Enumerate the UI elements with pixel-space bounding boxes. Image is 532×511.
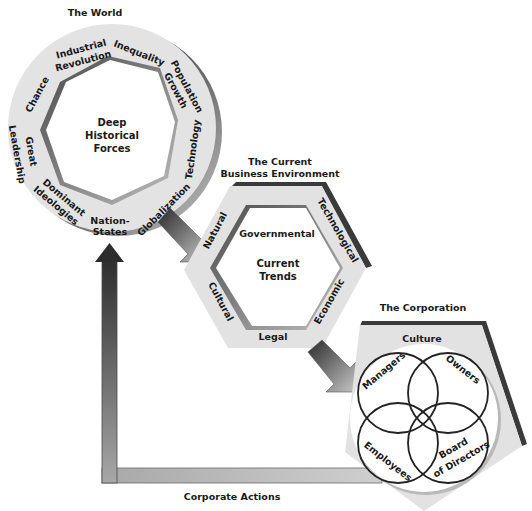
world-center-line-3: Forces [94, 143, 131, 154]
corporation-title: The Corporation [380, 302, 467, 313]
corporation-culture: Culture [402, 333, 441, 344]
world-title: The World [68, 7, 122, 18]
world-center-line-1: Deep [97, 117, 126, 128]
business-center-line-1: Current [256, 258, 299, 269]
corporate-actions-label: Corporate Actions [184, 491, 281, 502]
arrow-business-to-corporation [308, 340, 358, 392]
business-title-line-2: Business Environment [220, 168, 340, 179]
factor-legal: Legal [259, 331, 288, 342]
business-center-line-2: Trends [259, 271, 297, 282]
force-nation-states-line-2: States [93, 226, 128, 237]
force-nation-states-line-1: Nation- [90, 215, 129, 226]
diagram-canvas: The World Deep Historical Forces Industr… [0, 0, 532, 511]
factor-governmental: Governmental [239, 228, 315, 239]
world-center-line-2: Historical [85, 130, 139, 141]
business-title-line-1: The Current [248, 156, 312, 167]
